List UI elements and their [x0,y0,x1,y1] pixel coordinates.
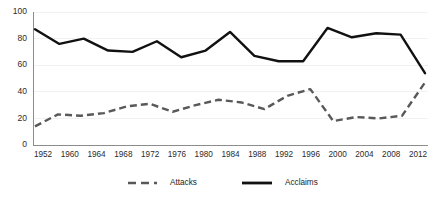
legend-label-acclaims: Acclaims [285,178,318,187]
y-tick-label: 20 [18,113,28,123]
x-tick-label: 2012 [409,150,428,159]
x-tick-label: 1976 [168,150,187,159]
legend-label-attacks: Attacks [170,178,197,187]
y-tick-label: 80 [18,33,28,43]
x-tick-label: 1980 [195,150,214,159]
x-axis-tick-labels: 1952196019641968197219761980198419881992… [34,150,428,159]
x-tick-label: 1992 [275,150,294,159]
chart-canvas: 020406080100 195219601964196819721976198… [0,0,439,201]
x-tick-label: 1988 [248,150,267,159]
x-tick-label: 2000 [329,150,348,159]
y-tick-label: 40 [18,86,28,96]
y-tick-label: 100 [13,6,27,16]
x-tick-label: 1984 [221,150,240,159]
x-tick-label: 1972 [141,150,160,159]
x-tick-label: 1960 [61,150,80,159]
x-tick-label: 1968 [114,150,133,159]
caption-strip [0,195,439,201]
x-tick-label: 1952 [34,150,53,159]
x-tick-label: 2008 [382,150,401,159]
y-tick-label: 0 [22,139,27,149]
line-chart: 020406080100 195219601964196819721976198… [0,0,439,201]
x-tick-label: 2004 [355,150,374,159]
y-tick-label: 60 [18,59,28,69]
x-tick-label: 1996 [302,150,321,159]
x-tick-label: 1964 [87,150,106,159]
